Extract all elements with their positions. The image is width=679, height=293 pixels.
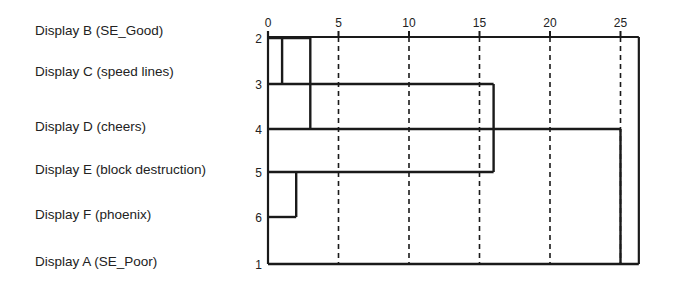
x-tick-label: 0: [265, 16, 272, 30]
leaf-case-number: 2: [255, 32, 262, 46]
leaf-case-number: 5: [255, 166, 262, 180]
dendrogram-chart: 0510152025 Display B (SE_Good)2Display C…: [0, 0, 679, 293]
leaf-case-number: 4: [255, 123, 262, 137]
leaf-label: Display B (SE_Good): [35, 23, 163, 38]
leaf-labels: Display B (SE_Good)2Display C (speed lin…: [35, 23, 262, 272]
dendrogram-lines: [268, 31, 639, 264]
leaf-label: Display D (cheers): [35, 119, 146, 134]
leaf-case-number: 6: [255, 211, 262, 225]
x-tick-label: 25: [614, 16, 628, 30]
x-tick-label: 20: [543, 16, 557, 30]
x-tick-label: 15: [473, 16, 487, 30]
grid-lines: [339, 37, 621, 264]
leaf-label: Display A (SE_Poor): [35, 254, 157, 269]
leaf-label: Display C (speed lines): [35, 64, 174, 79]
leaf-label: Display F (phoenix): [35, 207, 151, 222]
x-axis-ticks: 0510152025: [265, 16, 628, 37]
x-tick-label: 10: [402, 16, 416, 30]
leaf-case-number: 1: [255, 258, 262, 272]
leaf-case-number: 3: [255, 78, 262, 92]
leaf-label: Display E (block destruction): [35, 162, 206, 177]
x-tick-label: 5: [335, 16, 342, 30]
